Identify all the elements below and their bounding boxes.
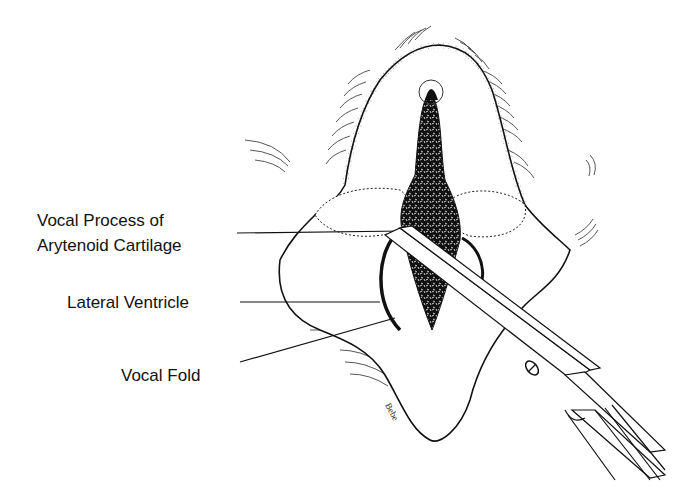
label-line: Lateral Ventricle — [67, 290, 189, 315]
label-lateral-ventricle: Lateral Ventricle — [67, 290, 189, 315]
label-line: Arytenoid Cartilage — [37, 233, 182, 258]
label-vocal-process: Vocal Process of Arytenoid Cartilage — [37, 208, 182, 258]
label-line: Vocal Process of — [37, 208, 182, 233]
illustration: Bebe Vocal Process of Arytenoid Cartilag… — [0, 0, 697, 503]
artist-signature: Bebe — [383, 401, 401, 422]
label-vocal-fold: Vocal Fold — [121, 363, 200, 388]
label-line: Vocal Fold — [121, 363, 200, 388]
